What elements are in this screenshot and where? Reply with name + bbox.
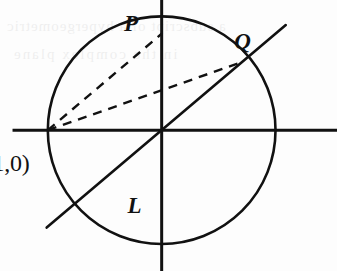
label-point-minus-one-zero: (-1,0) — [0, 151, 29, 175]
label-point-p: P — [124, 12, 138, 35]
unit-circle-diagram — [0, 0, 337, 271]
figure-container: a subscript of a hypergeometric in the c… — [0, 0, 337, 271]
dashed-chord-to-p — [48, 34, 162, 130]
label-line-l: L — [128, 194, 142, 217]
dashed-chord-to-q — [48, 62, 242, 130]
line-L — [47, 25, 286, 228]
label-point-q: Q — [234, 30, 251, 53]
